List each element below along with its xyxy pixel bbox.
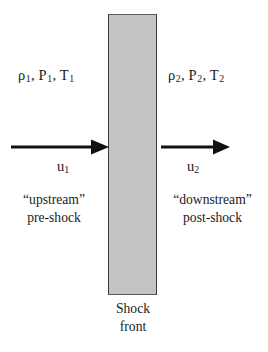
shock-front-diagram: ρ1, P1, T1 ρ2, P2, T2 u1 u2 “upstream” p… — [0, 0, 268, 352]
downstream-flow-arrow-icon — [161, 138, 230, 156]
upstream-temperature-subscript: 1 — [69, 73, 75, 84]
upstream-flow-arrow-icon — [11, 138, 109, 156]
downstream-separator-1: , — [181, 67, 189, 83]
upstream-separator-1: , — [31, 67, 39, 83]
shock-front-caption: Shock front — [98, 300, 168, 336]
downstream-pressure-symbol: P — [189, 67, 197, 83]
upstream-temperature-symbol: T — [60, 67, 69, 83]
shock-front-caption-line-1: Shock — [98, 300, 168, 318]
upstream-caption-line-1: “upstream” — [0, 191, 108, 209]
downstream-caption: “downstream” post-shock — [157, 191, 268, 227]
downstream-caption-line-1: “downstream” — [157, 191, 268, 209]
downstream-temperature-symbol: T — [210, 67, 219, 83]
downstream-temperature-subscript: 2 — [219, 73, 225, 84]
upstream-pressure-symbol: P — [39, 67, 47, 83]
shock-front-bar — [108, 14, 157, 295]
upstream-caption: “upstream” pre-shock — [0, 191, 108, 227]
upstream-state-label: ρ1, P1, T1 — [18, 68, 74, 84]
upstream-velocity-label: u1 — [57, 159, 69, 175]
downstream-state-label: ρ2, P2, T2 — [168, 68, 224, 84]
downstream-separator-2: , — [202, 67, 209, 83]
downstream-velocity-label: u2 — [187, 159, 199, 175]
shock-front-caption-line-2: front — [98, 318, 168, 336]
upstream-caption-line-2: pre-shock — [0, 209, 108, 227]
downstream-velocity-subscript: 2 — [194, 164, 199, 175]
upstream-separator-2: , — [52, 67, 59, 83]
downstream-caption-line-2: post-shock — [157, 209, 268, 227]
upstream-velocity-subscript: 1 — [64, 164, 69, 175]
